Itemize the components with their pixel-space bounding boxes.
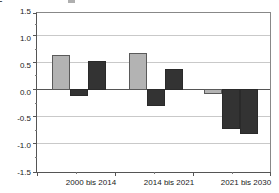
y-tick-label-1.0: 1.0 [7,35,31,43]
x-minor-tick-3 [232,172,233,174]
y-tick-label-0.5: 0.5 [7,62,31,70]
gridline-1.0 [37,35,270,36]
x-minor-tick-2 [154,172,155,174]
bar-chart: mittlerer Trend in %/a 1.5 1.0 0.5 0.0 -… [0,0,279,193]
y-minor-tick-1.25 [35,24,37,25]
bar-2014-bis-2021-series-3 [165,69,183,90]
y-tick-label--1.0: -1.0 [7,142,31,150]
scan-artifact [68,0,75,3]
y-minor-tick--0.25 [35,103,37,104]
y-major-tick--1.0 [33,143,37,144]
x-tick-group-2-end [193,172,194,176]
y-major-tick-0.5 [33,62,37,63]
bar-2000-bis-2014-series-3 [88,61,106,90]
x-tick-right-edge [270,172,271,176]
plot-area [36,12,271,173]
gridline-0.5 [37,62,270,63]
y-major-tick-0.0 [33,89,37,90]
x-tick-label-2021-bis-2030: 2021 bis 2030 [180,178,279,187]
y-minor-tick--0.75 [35,130,37,131]
y-minor-tick-0.25 [35,75,37,76]
bar-2014-bis-2021-series-2 [147,89,165,106]
gridline--1.0 [37,143,270,144]
y-major-tick-1.5 [33,13,37,14]
bar-2021-bis-2030-series-3 [240,89,258,134]
bar-2021-bis-2030-series-2 [222,89,240,129]
y-axis-title: mittlerer Trend in %/a [0,0,4,22]
y-tick-label--1.5: -1.5 [7,169,31,177]
y-tick-label--0.5: -0.5 [7,115,31,123]
bar-2021-bis-2030-series-1 [204,89,222,94]
y-tick-label-1.5: 1.5 [7,8,31,16]
x-tick-left-edge [37,172,38,176]
y-minor-tick-0.75 [35,49,37,50]
y-major-tick-1.0 [33,35,37,36]
y-minor-tick--1.25 [35,157,37,158]
bar-2014-bis-2021-series-1 [129,53,147,90]
x-minor-tick-1 [76,172,77,174]
y-tick-label-0.0: 0.0 [7,89,31,97]
bar-2000-bis-2014-series-1 [52,55,70,90]
bar-2000-bis-2014-series-2 [70,89,88,96]
x-tick-group-1-end [115,172,116,176]
y-major-tick--0.5 [33,116,37,117]
